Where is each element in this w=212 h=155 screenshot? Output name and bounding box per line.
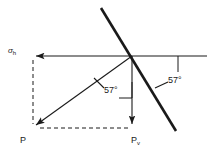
- p-resultant-label: P: [20, 136, 26, 145]
- plane-hatch-tick: [155, 82, 168, 88]
- sigma-h-label: σh: [8, 47, 16, 56]
- angle-label-resultant: 57°: [104, 86, 118, 95]
- angle-label-plane: 57°: [168, 76, 182, 85]
- force-diagram-figure: σh 57° 57° P Pv: [0, 0, 212, 155]
- pv-label: Pv: [131, 136, 140, 146]
- inclined-plane-line: [101, 8, 176, 131]
